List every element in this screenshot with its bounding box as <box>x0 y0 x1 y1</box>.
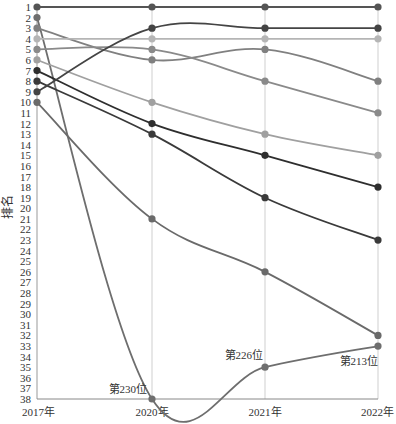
data-point <box>148 25 155 32</box>
data-point <box>33 67 40 74</box>
data-point <box>374 78 381 85</box>
y-tick-label: 38 <box>20 393 32 405</box>
data-point <box>33 25 40 32</box>
data-point <box>148 3 155 10</box>
data-point <box>374 25 381 32</box>
data-point <box>33 3 40 10</box>
data-point <box>374 332 381 339</box>
data-point <box>261 268 268 275</box>
grid-lines <box>37 7 378 399</box>
data-point <box>33 56 40 63</box>
series-line <box>37 23 378 92</box>
data-point <box>261 131 268 138</box>
series-line <box>37 18 378 422</box>
data-point <box>148 131 155 138</box>
data-point <box>33 46 40 53</box>
data-point <box>33 14 40 21</box>
data-point <box>148 99 155 106</box>
data-point <box>261 152 268 159</box>
x-tick-label: 2020年 <box>136 405 169 418</box>
rank-line-chart: 1234567891011121314151617181920212223242… <box>0 0 396 424</box>
data-point <box>33 78 40 85</box>
series-line <box>37 102 378 335</box>
data-point <box>261 35 268 42</box>
data-point <box>374 3 381 10</box>
y-axis: 1234567891011121314151617181920212223242… <box>20 1 32 405</box>
rank-annotation: 第226位 <box>225 348 264 361</box>
data-point <box>261 194 268 201</box>
data-point <box>148 35 155 42</box>
rank-annotation: 第213位 <box>340 354 379 367</box>
data-point <box>148 215 155 222</box>
data-point <box>261 78 268 85</box>
data-point <box>33 88 40 95</box>
x-tick-label: 2017年 <box>22 405 55 418</box>
x-tick-label: 2022年 <box>361 405 394 418</box>
data-point <box>148 120 155 127</box>
data-point <box>148 56 155 63</box>
data-point <box>148 46 155 53</box>
data-point <box>148 395 155 402</box>
data-point <box>374 236 381 243</box>
rank-annotation: 第230位 <box>109 382 148 395</box>
x-tick-label: 2021年 <box>249 405 282 418</box>
data-point <box>374 184 381 191</box>
y-axis-label: 排名 <box>0 195 15 219</box>
data-point <box>261 364 268 371</box>
data-point <box>261 3 268 10</box>
data-point <box>374 342 381 349</box>
data-point <box>33 99 40 106</box>
series-line <box>37 71 378 188</box>
data-point <box>374 35 381 42</box>
data-point <box>261 46 268 53</box>
data-point <box>33 35 40 42</box>
series-line <box>37 28 378 81</box>
data-point <box>374 152 381 159</box>
data-point <box>374 109 381 116</box>
data-point <box>261 25 268 32</box>
annotations: 第230位第226位第213位 <box>109 348 379 395</box>
series-lines <box>37 7 378 422</box>
